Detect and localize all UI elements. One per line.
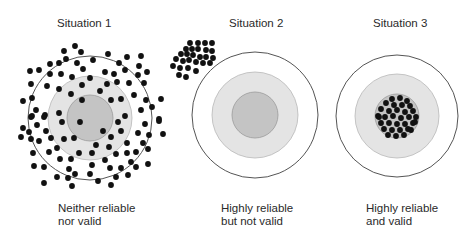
- caption-line-1: Neither reliable: [58, 202, 135, 215]
- shot-dot: [141, 80, 147, 86]
- situation-1-caption: Neither reliable nor valid: [58, 202, 135, 228]
- shot-dot: [398, 115, 404, 121]
- shot-dot: [135, 72, 141, 78]
- shot-dot: [401, 132, 407, 138]
- shot-dot: [113, 151, 119, 157]
- shot-dot: [145, 161, 151, 167]
- shot-dot: [133, 164, 139, 170]
- shot-dot: [385, 132, 391, 138]
- shot-dot: [20, 125, 26, 131]
- shot-dot: [131, 92, 137, 98]
- caption-line-2: and valid: [366, 215, 438, 228]
- shot-dot: [26, 129, 32, 135]
- shot-dot: [71, 135, 77, 141]
- shot-dot: [28, 81, 34, 87]
- caption-line-2: nor valid: [58, 215, 135, 228]
- shot-dot: [27, 68, 33, 74]
- shot-dot: [41, 164, 47, 170]
- shot-dot: [390, 113, 396, 119]
- shot-dot: [108, 182, 114, 188]
- shot-dot: [66, 166, 72, 172]
- situation-3-caption: Highly reliable and valid: [366, 202, 438, 228]
- shot-dot: [189, 46, 195, 52]
- shot-dot: [74, 60, 80, 66]
- shot-dot: [210, 55, 216, 61]
- shot-dot: [48, 135, 54, 141]
- shot-dot: [89, 162, 95, 168]
- shot-dot: [195, 46, 201, 52]
- shot-dot: [412, 119, 418, 125]
- shot-dot: [106, 144, 112, 150]
- shot-dot: [413, 114, 419, 120]
- shot-dot: [183, 46, 189, 52]
- shot-dot: [43, 128, 49, 134]
- shot-dot: [111, 71, 117, 77]
- shot-dot: [394, 121, 400, 127]
- shot-dot: [176, 72, 182, 78]
- shot-dot: [399, 102, 405, 108]
- shot-dot: [68, 91, 74, 97]
- shot-dot: [108, 134, 114, 140]
- shot-dot: [118, 128, 124, 134]
- situation-2-title: Situation 2: [229, 17, 283, 29]
- shot-dot: [80, 66, 86, 72]
- shot-dot: [33, 107, 39, 113]
- shot-dot: [18, 134, 24, 140]
- shot-dot: [186, 57, 192, 63]
- shot-dot: [193, 59, 199, 65]
- shot-dot: [135, 130, 141, 136]
- shot-dot: [54, 145, 60, 151]
- shot-dot: [116, 60, 122, 66]
- shot-dot: [140, 140, 146, 146]
- shot-dot: [79, 82, 85, 88]
- shot-dot: [122, 113, 128, 119]
- shot-dot: [146, 132, 152, 138]
- shot-dot: [28, 136, 34, 142]
- shot-dot: [104, 81, 110, 87]
- shot-dot: [203, 54, 209, 60]
- shot-dot: [200, 60, 206, 66]
- shot-dot: [185, 65, 191, 71]
- shot-dot: [126, 80, 132, 86]
- shot-dot: [184, 51, 190, 57]
- shot-dot: [389, 96, 395, 102]
- shot-dot: [124, 150, 130, 156]
- shot-dot: [183, 74, 189, 80]
- shot-dot: [142, 121, 148, 127]
- shot-dot: [376, 114, 382, 120]
- shot-dot: [402, 121, 408, 127]
- shot-dot: [149, 104, 155, 110]
- shot-dot: [107, 165, 113, 171]
- shot-dot: [408, 127, 414, 133]
- shot-dot: [93, 142, 99, 148]
- situation-1-title: Situation 1: [57, 17, 111, 29]
- shot-dot: [173, 56, 179, 62]
- shot-dot: [122, 67, 128, 73]
- shot-dot: [381, 126, 387, 132]
- shot-dot: [195, 40, 201, 46]
- shot-dot: [144, 69, 150, 75]
- shot-dot: [108, 97, 114, 103]
- shot-dot: [79, 97, 85, 103]
- shot-dot: [69, 74, 75, 80]
- shot-dot: [156, 118, 162, 124]
- shot-dot: [105, 51, 111, 57]
- shot-dot: [378, 120, 384, 126]
- shot-dot: [203, 47, 209, 53]
- shot-dot: [389, 127, 395, 133]
- shot-dot: [145, 146, 151, 152]
- shot-dot: [115, 119, 121, 125]
- shot-dot: [87, 171, 93, 177]
- caption-line-1: Highly reliable: [366, 202, 438, 215]
- shot-dot: [58, 71, 64, 77]
- shot-dot: [125, 172, 131, 178]
- target-bullseye: [67, 95, 113, 141]
- shot-dot: [160, 131, 166, 137]
- shot-dot: [76, 150, 82, 156]
- shot-dot: [72, 171, 78, 177]
- shot-dot: [391, 102, 397, 108]
- shot-dot: [209, 40, 215, 46]
- shot-dot: [68, 156, 74, 162]
- shot-dot: [47, 71, 53, 77]
- shot-dot: [61, 48, 67, 54]
